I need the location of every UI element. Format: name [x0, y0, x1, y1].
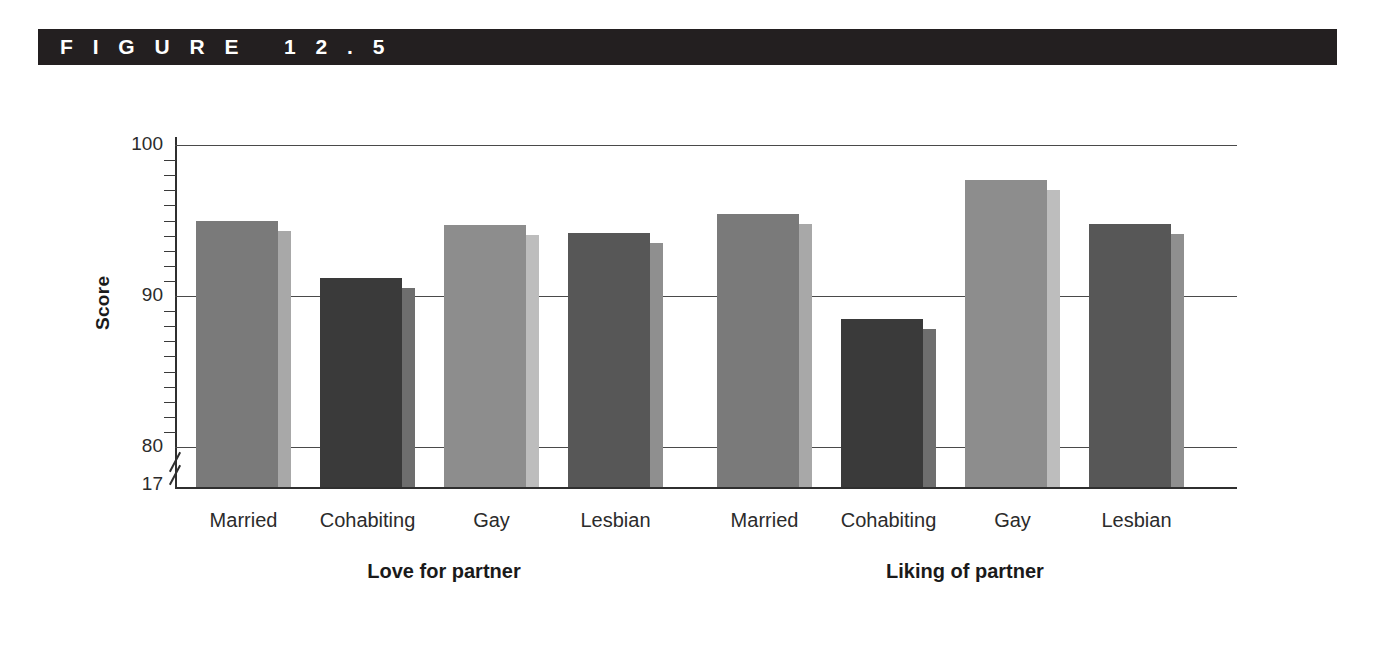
y-minor-tick	[164, 356, 176, 357]
y-minor-tick	[164, 205, 176, 206]
bar-front-face	[1089, 224, 1171, 487]
bar-side-panel	[278, 231, 291, 488]
figure-container: F I G U R E 1 2 . 5 100908017ScoreMarrie…	[0, 0, 1391, 666]
y-minor-tick	[164, 387, 176, 388]
y-minor-tick	[164, 311, 176, 312]
bar-love-for-partner-cohabiting	[320, 278, 415, 487]
y-minor-tick	[164, 341, 176, 342]
y-tick-label-baseline: 17	[115, 473, 163, 495]
y-minor-tick	[164, 326, 176, 327]
bar-front-face	[965, 180, 1047, 487]
bar-front-face	[444, 225, 526, 487]
y-minor-tick	[164, 236, 176, 237]
bar-side-panel	[402, 288, 415, 487]
bar-front-face	[320, 278, 402, 487]
bar-front-face	[841, 319, 923, 487]
group-label-liking-of-partner: Liking of partner	[717, 560, 1213, 583]
bar-side-panel	[799, 224, 812, 487]
x-tick-label-lesbian: Lesbian	[548, 509, 683, 532]
bar-front-face	[568, 233, 650, 487]
y-tick-label-80: 80	[115, 435, 163, 457]
x-tick-label-gay: Gay	[945, 509, 1080, 532]
y-minor-tick	[164, 221, 176, 222]
bar-liking-of-partner-cohabiting	[841, 319, 936, 487]
x-tick-label-married: Married	[176, 509, 311, 532]
bar-side-panel	[1171, 234, 1184, 487]
bar-front-face	[196, 221, 278, 488]
y-minor-tick	[164, 372, 176, 373]
bar-liking-of-partner-lesbian	[1089, 224, 1184, 487]
figure-title-bar: F I G U R E 1 2 . 5	[38, 29, 1337, 65]
bar-love-for-partner-lesbian	[568, 233, 663, 487]
y-tick-label-100: 100	[115, 133, 163, 155]
bar-side-panel	[923, 329, 936, 487]
y-tick-label-90: 90	[115, 284, 163, 306]
y-minor-tick	[164, 160, 176, 161]
x-tick-label-lesbian: Lesbian	[1069, 509, 1204, 532]
x-tick-label-married: Married	[697, 509, 832, 532]
y-minor-tick	[164, 190, 176, 191]
figure-label: F I G U R E 1 2 . 5	[60, 35, 391, 59]
bar-side-panel	[650, 243, 663, 487]
bar-liking-of-partner-gay	[965, 180, 1060, 487]
y-minor-tick	[164, 402, 176, 403]
gridline-100	[175, 145, 1237, 146]
y-minor-tick	[164, 281, 176, 282]
y-minor-tick	[164, 266, 176, 267]
bar-love-for-partner-married	[196, 221, 291, 488]
group-label-love-for-partner: Love for partner	[196, 560, 692, 583]
bar-front-face	[717, 214, 799, 487]
y-minor-tick	[164, 175, 176, 176]
y-axis-title: Score	[92, 210, 114, 330]
bar-love-for-partner-gay	[444, 225, 539, 487]
y-minor-tick	[164, 417, 176, 418]
y-minor-tick	[164, 432, 176, 433]
x-tick-label-cohabiting: Cohabiting	[300, 509, 435, 532]
bar-liking-of-partner-married	[717, 214, 812, 487]
x-axis-line	[175, 487, 1237, 489]
x-tick-label-gay: Gay	[424, 509, 559, 532]
y-minor-tick	[164, 251, 176, 252]
bar-side-panel	[526, 235, 539, 487]
bar-side-panel	[1047, 190, 1060, 487]
x-tick-label-cohabiting: Cohabiting	[821, 509, 956, 532]
